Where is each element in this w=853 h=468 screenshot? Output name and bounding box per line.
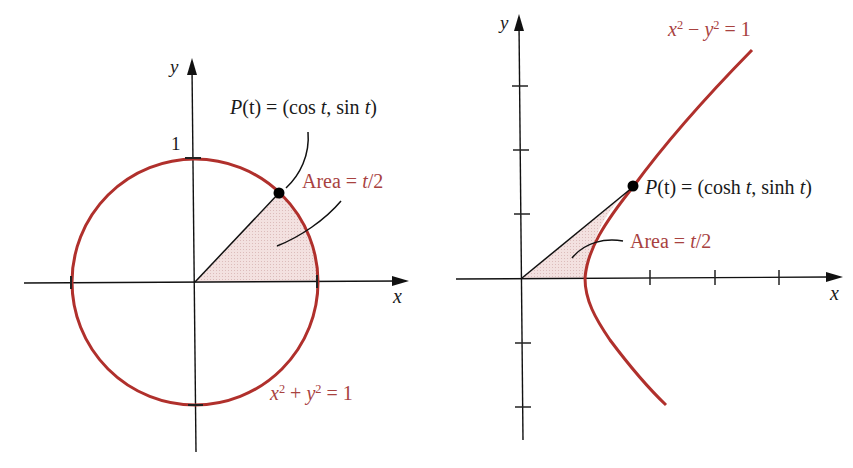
x-axis-arrow-icon (826, 272, 843, 282)
x-axis-label: x (830, 282, 839, 305)
point-label: P(t) = (cosh t, sinh t) (645, 176, 812, 199)
y-axis-label: y (170, 56, 178, 78)
area-label-pre: Area = (630, 230, 690, 252)
area-label-pre: Area = (302, 170, 362, 192)
point-label-eq: = (cos (261, 96, 321, 118)
point-label-close: ) (805, 176, 812, 198)
area-label-post: /2 (368, 170, 384, 192)
circle-equation: x2 + y2 = 1 (270, 382, 353, 405)
tick-label-one: 1 (171, 133, 181, 155)
point-label-mid: , sin (326, 96, 364, 118)
x-axis (456, 277, 830, 279)
eq-x: x (668, 18, 677, 40)
area-label: Area = t/2 (302, 170, 383, 193)
point-label-t: (t) (242, 96, 261, 118)
y-axis (192, 68, 196, 452)
area-label-post: /2 (696, 230, 712, 252)
point-label-t: (t) (657, 176, 676, 198)
eq-y: y (306, 382, 315, 404)
eq-rhs: = 1 (719, 18, 750, 40)
hyperbola-figure (456, 14, 843, 440)
point-label-eq: = (cosh (676, 176, 746, 198)
hyperbola-equation: x2 − y2 = 1 (668, 18, 751, 41)
area-label: Area = t/2 (630, 230, 711, 253)
eq-op: − (683, 18, 704, 40)
eq-rhs: = 1 (321, 382, 352, 404)
eq-x: x (270, 382, 279, 404)
eq-y: y (704, 18, 713, 40)
point-label-p: P (645, 176, 657, 198)
circle-sector-area (195, 193, 318, 282)
y-axis-arrow-icon (514, 14, 524, 31)
figure-canvas (0, 0, 853, 468)
hyperbola-curve (585, 50, 752, 405)
point-p (274, 188, 285, 199)
y-axis-label: y (500, 12, 508, 34)
point-label-close: ) (370, 96, 377, 118)
point-label: P(t) = (cos t, sin t) (230, 96, 377, 119)
point-label-p: P (230, 96, 242, 118)
y-axis-arrow-icon (187, 58, 197, 75)
x-axis-label: x (393, 285, 402, 308)
point-p (628, 181, 639, 192)
eq-op: + (285, 382, 306, 404)
point-label-mid: , sinh (751, 176, 799, 198)
